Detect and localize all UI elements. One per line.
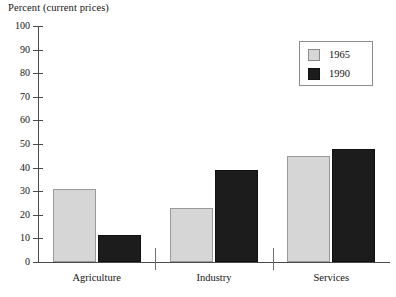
y-axis-tick-label-text: 20	[2, 210, 30, 220]
legend-label-1965: 1965	[329, 49, 350, 61]
group-separator-tick	[273, 248, 274, 270]
y-axis-tick	[33, 144, 43, 145]
legend-item-1990: 1990	[308, 67, 350, 80]
bar-industry-1965	[170, 208, 213, 262]
y-axis-tick-label: 40	[0, 163, 30, 173]
legend-swatch-icon-1990	[308, 68, 320, 80]
y-axis-tick-label-text: 30	[2, 186, 30, 196]
y-axis-tick	[33, 97, 43, 98]
bar-agriculture-1965	[53, 189, 96, 262]
y-axis-tick-label-text: 90	[2, 45, 30, 55]
y-axis-tick-label-text: 70	[2, 92, 30, 102]
legend-item-1965: 1965	[308, 48, 350, 61]
y-axis-tick	[33, 238, 43, 239]
y-axis-tick-label: 20	[0, 210, 30, 220]
y-axis-tick-label: 100	[0, 21, 30, 31]
y-axis-tick-label-text: 40	[2, 163, 30, 173]
y-axis-tick	[33, 26, 43, 27]
group-separator-tick	[155, 248, 156, 270]
y-axis-tick-label: 80	[0, 68, 30, 78]
y-axis-tick-label-text: 100	[2, 21, 30, 31]
y-axis-tick-label-text: 0	[2, 257, 30, 267]
y-axis-tick-label: 10	[0, 233, 30, 243]
category-label-agriculture: Agriculture	[38, 272, 155, 283]
y-axis-tick-label-text: 60	[2, 115, 30, 125]
y-axis-tick	[33, 191, 43, 192]
x-axis-line	[38, 262, 390, 263]
y-axis-tick	[33, 215, 43, 216]
legend-label-1990: 1990	[329, 68, 350, 80]
bar-agriculture-1990	[98, 235, 141, 262]
y-axis-tick	[33, 120, 43, 121]
y-axis-tick-label: 30	[0, 186, 30, 196]
y-axis-tick-label-text: 10	[2, 233, 30, 243]
y-axis-tick-label: 70	[0, 92, 30, 102]
bar-chart: Percent (current prices) 100908070605040…	[0, 0, 396, 297]
y-axis-tick-label-text: 50	[2, 139, 30, 149]
y-axis-tick-label: 60	[0, 115, 30, 125]
y-axis-tick-label: 0	[0, 257, 30, 267]
bar-industry-1990	[215, 170, 258, 262]
category-label-services: Services	[273, 272, 390, 283]
y-axis-tick	[33, 50, 43, 51]
y-axis-tick-label-text: 80	[2, 68, 30, 78]
y-axis-tick-label: 50	[0, 139, 30, 149]
chart-legend: 1965 1990	[299, 41, 373, 86]
y-axis-tick	[33, 73, 43, 74]
y-axis-tick	[33, 168, 43, 169]
bar-services-1990	[332, 149, 375, 262]
category-label-industry: Industry	[155, 272, 272, 283]
y-axis-tick-label: 90	[0, 45, 30, 55]
bar-services-1965	[287, 156, 330, 262]
y-axis-tick	[33, 262, 43, 263]
chart-title: Percent (current prices)	[8, 2, 109, 13]
legend-swatch-icon-1965	[308, 49, 320, 61]
